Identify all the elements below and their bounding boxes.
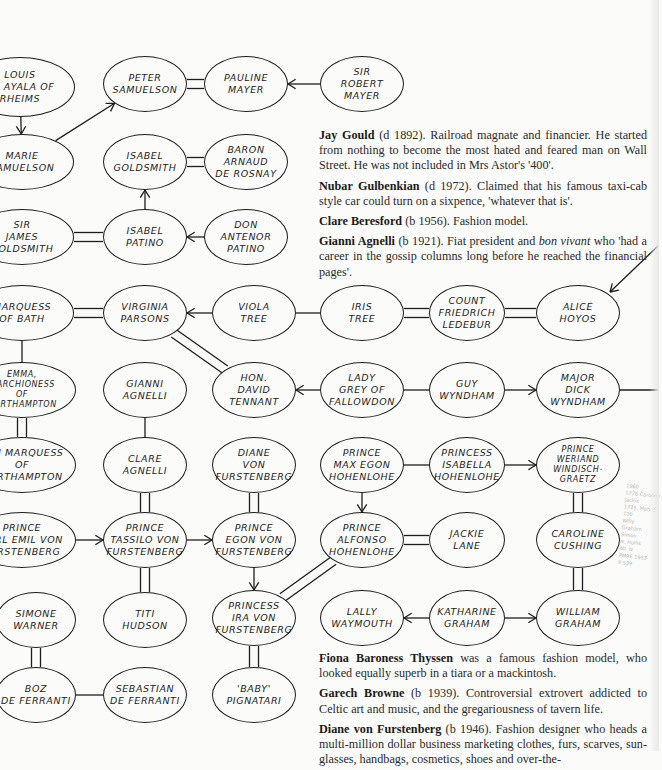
person-name: Louis de Ayala of Rheims bbox=[0, 69, 54, 105]
person-node-isabelp: Isabel Patino bbox=[103, 209, 187, 265]
person-node-isabelg: Isabel Goldsmith bbox=[103, 134, 187, 190]
descent-arrow bbox=[56, 103, 115, 140]
bio-block-top: Jay Gould (d 1892). Railroad magnate and… bbox=[319, 128, 647, 285]
arrowhead-icon bbox=[528, 390, 536, 395]
arrowhead-icon bbox=[145, 190, 150, 198]
person-node-caroline: Caroline Cushing bbox=[536, 512, 620, 568]
bio-garech-browne: Garech Browne (b 1939). Controversial ex… bbox=[319, 686, 647, 716]
person-node-clare: Clare Agnelli bbox=[103, 437, 187, 493]
bio-gianni-agnelli: Gianni Agnelli (b 1921). Fiat president … bbox=[319, 234, 647, 280]
person-node-weriand: Prince Weriand Windisch- Graetz bbox=[536, 437, 620, 493]
person-node-baby: 'Baby' Pignatari bbox=[212, 667, 296, 723]
person-name: Iris Tree bbox=[349, 301, 376, 325]
person-name: Count Friedrich Ledebur bbox=[439, 295, 496, 331]
person-name: Isabel Goldsmith bbox=[114, 150, 177, 174]
arrowhead-icon bbox=[254, 582, 259, 590]
person-name: Emma, Marchioness of Northampton bbox=[0, 370, 57, 410]
arrowhead-icon bbox=[140, 190, 145, 198]
person-node-lally: Lally Waymouth bbox=[320, 590, 404, 646]
person-name: Baron Arnaud de Rosnay bbox=[215, 144, 276, 180]
person-name: 'Baby' Pignatari bbox=[226, 683, 281, 707]
person-name: Princess Isabella Hohenlohe bbox=[434, 447, 500, 483]
arrowhead-icon bbox=[95, 535, 103, 540]
arrowhead-icon bbox=[528, 618, 536, 623]
person-node-ira: Princess Ira von Furstenberg bbox=[212, 590, 296, 646]
arrowhead-icon bbox=[528, 613, 536, 618]
bio-nubar-gulbenkian: Nubar Gulbenkian (d 1972). Claimed that … bbox=[319, 179, 647, 209]
arrowhead-icon bbox=[187, 237, 195, 242]
person-node-titi: Titi Hudson bbox=[103, 592, 187, 648]
person-name: Virginia Parsons bbox=[120, 301, 169, 325]
person-node-dick: Major Dick Wyndham bbox=[536, 362, 620, 418]
person-name: 6th Marquess of Northampton bbox=[0, 447, 63, 483]
person-node-virginia: Virginia Parsons bbox=[103, 285, 187, 341]
person-name: Diane von Furstenberg bbox=[215, 447, 292, 483]
person-node-jackie: Jackie Lane bbox=[429, 512, 505, 568]
marriage-line bbox=[280, 557, 331, 594]
bio-block-bottom: Fiona Baroness Thyssen was a famous fash… bbox=[319, 651, 647, 770]
person-name: Caroline Cushing bbox=[551, 528, 604, 552]
arrowhead-icon bbox=[95, 540, 103, 545]
person-node-antenor: Don Antenor Patino bbox=[204, 209, 288, 265]
person-name: Boz de Ferranti bbox=[1, 683, 71, 707]
person-name: Viola Tree bbox=[238, 301, 270, 325]
person-name: Alice Hoyos bbox=[560, 301, 597, 325]
arrowhead-icon bbox=[528, 465, 536, 470]
person-name: Hon. David Tennant bbox=[229, 372, 279, 408]
person-name: Prince Karl Emil von Furstenberg bbox=[0, 522, 63, 558]
person-node-iris: Iris Tree bbox=[320, 285, 404, 341]
person-node-egon: Prince Egon von Furstenberg bbox=[212, 512, 296, 568]
person-node-tassilo: Prince Tassilo von Furstenberg bbox=[103, 512, 187, 568]
person-name: Don Antenor Patino bbox=[221, 219, 272, 255]
person-node-isabellah: Princess Isabella Hohenlohe bbox=[429, 437, 505, 493]
person-name: Jackie Lane bbox=[450, 528, 485, 552]
person-node-gianni: Gianni Agnelli bbox=[103, 362, 187, 418]
person-node-pauline: Pauline Mayer bbox=[204, 56, 288, 112]
person-name: Simone Warner bbox=[13, 608, 58, 632]
arrowhead-icon bbox=[288, 84, 296, 89]
bio-diane-von-furstenberg: Diane von Furstenberg (b 1946). Fashion … bbox=[319, 722, 647, 768]
person-name: Sir Robert Mayer bbox=[341, 66, 384, 102]
person-name: Sir James Goldsmith bbox=[0, 219, 53, 255]
arrowhead-icon bbox=[362, 504, 367, 512]
person-node-sebastian: Sebastian de Ferranti bbox=[103, 667, 187, 723]
arrowhead-icon bbox=[296, 385, 304, 390]
person-name: Gianni Agnelli bbox=[123, 378, 168, 402]
person-name: Prince Egon von Furstenberg bbox=[215, 522, 292, 558]
arrowhead-icon bbox=[288, 79, 296, 84]
person-node-peter: Peter Samuelson bbox=[103, 56, 187, 112]
marriage-line bbox=[171, 337, 222, 373]
bio-clare-beresford: Clare Beresford (b 1956). Fashion model. bbox=[319, 214, 647, 229]
person-node-robert: Sir Robert Mayer bbox=[320, 56, 404, 112]
person-name: Lady Grey of Fallowdon bbox=[329, 372, 395, 408]
bio-jay-gould: Jay Gould (d 1892). Railroad magnate and… bbox=[319, 128, 647, 174]
person-name: Marie Samuelson bbox=[0, 150, 55, 174]
person-node-grey: Lady Grey of Fallowdon bbox=[320, 362, 404, 418]
person-name: Titi Hudson bbox=[122, 608, 168, 632]
arrowhead-icon bbox=[187, 308, 195, 313]
arrowhead-icon bbox=[187, 313, 195, 318]
person-name: Marquess of Bath bbox=[0, 301, 51, 325]
arrowhead-icon bbox=[528, 460, 536, 465]
arrowhead-icon bbox=[21, 126, 25, 134]
person-node-baron: Baron Arnaud de Rosnay bbox=[204, 134, 288, 190]
arrowhead-icon bbox=[296, 390, 304, 395]
person-node-viola: Viola Tree bbox=[212, 285, 296, 341]
person-node-alfonso: Prince Alfonso Hohenlohe bbox=[320, 512, 404, 568]
person-node-friedrich: Count Friedrich Ledebur bbox=[429, 285, 505, 341]
arrowhead-icon bbox=[404, 613, 412, 618]
person-name: Princess Ira von Furstenberg bbox=[215, 600, 292, 636]
person-node-katharine: Katharine Graham bbox=[429, 590, 505, 646]
person-name: Pauline Mayer bbox=[224, 72, 268, 96]
person-node-diane: Diane von Furstenberg bbox=[212, 437, 296, 493]
person-name: Clare Agnelli bbox=[123, 453, 168, 477]
person-name: Prince Weriand Windisch- Graetz bbox=[553, 445, 603, 485]
page-edge-shadow bbox=[649, 0, 659, 751]
marriage-line bbox=[176, 330, 227, 366]
person-name: Guy Wyndham bbox=[439, 378, 495, 402]
person-node-maxegon: Prince Max Egon Hohenlohe bbox=[320, 437, 404, 493]
arrowhead-icon bbox=[204, 535, 212, 540]
person-name: Prince Max Egon Hohenlohe bbox=[329, 447, 395, 483]
arrowhead-icon bbox=[528, 385, 536, 390]
person-name: William Graham bbox=[555, 606, 601, 630]
